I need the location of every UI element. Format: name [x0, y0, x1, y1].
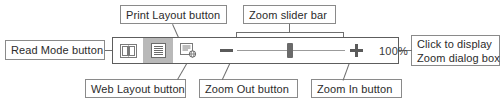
plus-icon: [350, 44, 363, 57]
annotated-figure: Print Layout button Zoom slider bar Read…: [0, 0, 503, 104]
callout-zoom-slider: Zoom slider bar: [243, 5, 336, 24]
callout-read-mode: Read Mode button: [5, 40, 105, 60]
callout-print-layout-text: Print Layout button: [126, 9, 221, 21]
web-layout-button[interactable]: [173, 38, 203, 63]
callout-zoom-in-text: Zoom In button: [317, 83, 396, 95]
callout-web-layout-text: Web Layout button: [91, 83, 180, 95]
zoom-in-button[interactable]: [345, 38, 367, 63]
print-layout-button[interactable]: [143, 38, 173, 63]
view-and-zoom-toolbar: 100%: [112, 37, 399, 64]
callout-read-mode-text: Read Mode button: [11, 44, 99, 56]
open-book-icon: [120, 44, 137, 58]
callout-web-layout: Web Layout button: [85, 79, 186, 98]
callout-zoom-slider-text: Zoom slider bar: [249, 9, 330, 21]
callout-zoom-dialog-line2: Zoom dialog box: [417, 51, 494, 65]
web-layout-icon: [180, 43, 197, 58]
print-layout-icon: [151, 43, 166, 58]
callout-zoom-out-text: Zoom Out button: [205, 83, 292, 95]
zoom-percent-label[interactable]: 100%: [379, 45, 408, 57]
minus-icon: [220, 44, 233, 57]
zoom-slider[interactable]: [237, 38, 345, 63]
zoom-out-button[interactable]: [215, 38, 237, 63]
callout-zoom-dialog-line1: Click to display: [417, 37, 494, 51]
callout-zoom-in: Zoom In button: [311, 79, 402, 98]
callout-print-layout: Print Layout button: [120, 5, 227, 24]
callout-zoom-dialog: Click to display Zoom dialog box: [411, 35, 500, 66]
callout-zoom-out: Zoom Out button: [199, 79, 298, 98]
read-mode-button[interactable]: [113, 38, 143, 63]
zoom-slider-handle[interactable]: [287, 43, 293, 58]
